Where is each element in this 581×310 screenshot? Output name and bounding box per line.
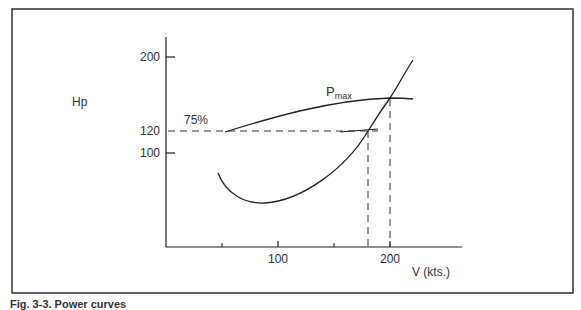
x-ticks: 100 200 bbox=[222, 241, 400, 266]
y-tick-120: 120 bbox=[140, 124, 160, 138]
y-ticks: 200 120 100 bbox=[140, 50, 175, 160]
y-axis-label: Hp bbox=[72, 95, 88, 109]
y-tick-100: 100 bbox=[140, 146, 160, 160]
y-tick-200: 200 bbox=[140, 50, 160, 64]
figure-frame bbox=[12, 9, 573, 293]
percent-label: 75% bbox=[184, 113, 208, 127]
x-tick-100: 100 bbox=[268, 252, 288, 266]
figure-caption: Fig. 3-3. Power curves bbox=[10, 298, 126, 310]
pmax-label: Pmax bbox=[326, 84, 352, 101]
pmax-curve bbox=[225, 98, 413, 132]
power-required-curve bbox=[218, 60, 413, 203]
x-tick-200: 200 bbox=[380, 252, 400, 266]
x-axis-label: V (kts.) bbox=[412, 265, 450, 279]
